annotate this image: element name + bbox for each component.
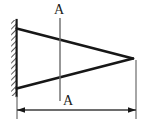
beam-diagram-canvas: A A [0, 0, 145, 122]
engineering-diagram: A A [0, 0, 145, 122]
section-label-top: A [54, 2, 65, 17]
fixed-support-wall [11, 20, 16, 96]
section-label-bottom: A [63, 93, 74, 108]
